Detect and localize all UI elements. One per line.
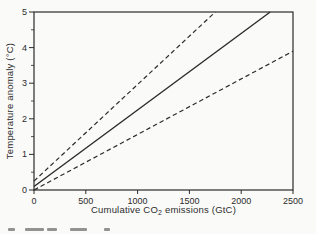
chart-figure: 05001000150020002500012345 Temperature a… — [0, 0, 316, 234]
plot-frame — [34, 12, 293, 190]
data-series — [34, 12, 293, 190]
x-axis-title: Cumulative CO2 emissions (GtC) — [34, 204, 293, 215]
series-line-upper-uncertainty-bound — [34, 12, 215, 181]
y-axis-title: Temperature anomaly (°C) — [4, 43, 15, 159]
y-tick-label: 4 — [22, 43, 27, 53]
cropped-caption-fragment — [0, 227, 316, 234]
caption-letter-top-mark — [104, 228, 110, 231]
x-axis-title-units: emissions (GtC) — [162, 204, 236, 215]
caption-letter-top-mark — [47, 228, 57, 231]
caption-letter-top-mark — [70, 228, 87, 231]
x-axis-title-text: Cumulative CO — [91, 204, 158, 215]
y-tick-label: 5 — [22, 7, 27, 17]
y-tick-label: 3 — [22, 78, 27, 88]
y-tick-label: 2 — [22, 114, 27, 124]
caption-letter-top-mark — [8, 228, 15, 231]
series-line-lower-uncertainty-bound — [34, 51, 293, 190]
y-tick-label: 0 — [22, 185, 27, 195]
series-line-best-estimate — [34, 12, 270, 186]
chart-canvas: 05001000150020002500012345 — [0, 0, 316, 234]
y-tick-label: 1 — [22, 149, 27, 159]
caption-letter-top-mark — [25, 228, 44, 231]
